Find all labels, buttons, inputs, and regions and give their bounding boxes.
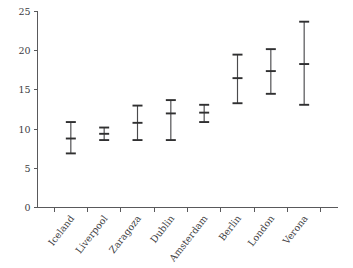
y-tick-label-group: 0510152025	[18, 6, 30, 213]
data-series-group	[66, 22, 309, 154]
x-axis	[38, 208, 338, 213]
y-tick-label: 5	[24, 163, 30, 174]
error-bar-marker	[199, 105, 209, 122]
x-tick-label: London	[246, 213, 277, 248]
error-bar-marker	[266, 49, 276, 94]
error-bar-marker	[99, 128, 109, 141]
y-axis	[34, 12, 38, 208]
y-tick-label: 0	[24, 202, 30, 213]
y-tick-group	[34, 12, 38, 208]
y-tick-label: 15	[18, 84, 30, 95]
x-tick-label: Liverpool	[73, 213, 110, 256]
y-tick-label: 20	[18, 45, 30, 56]
x-tick-label-group: IcelandLiverpoolZaragozaDublinAmsterdamB…	[46, 213, 310, 265]
errorbar-chart: 0510152025 IcelandLiverpoolZaragozaDubli…	[0, 0, 353, 268]
y-tick-label: 10	[18, 124, 30, 135]
error-bar-marker	[233, 55, 243, 104]
x-tick-label: Berlin	[216, 213, 243, 243]
y-tick-label: 25	[18, 6, 30, 17]
error-bar-marker	[166, 100, 176, 140]
x-tick-label: Zaragoza	[107, 213, 144, 255]
x-tick-label: Dublin	[148, 213, 176, 245]
x-tick-label: Iceland	[46, 213, 77, 248]
x-tick-label: Verona	[280, 213, 310, 247]
error-bar-marker	[66, 122, 76, 153]
error-bar-marker	[299, 22, 309, 105]
chart-canvas: 0510152025 IcelandLiverpoolZaragozaDubli…	[0, 0, 353, 268]
error-bar-marker	[133, 106, 143, 140]
x-tick-group	[54, 208, 321, 213]
